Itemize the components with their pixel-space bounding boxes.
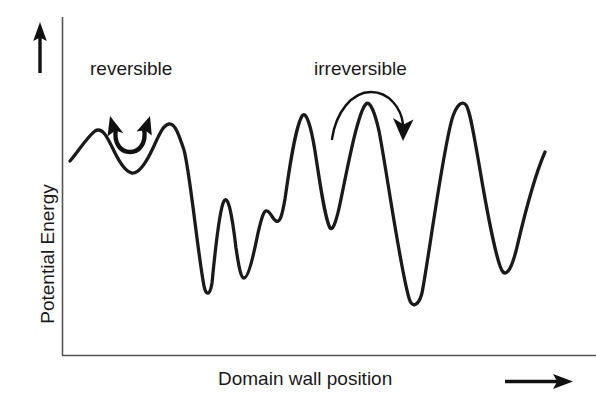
energy-landscape-figure: reversible irreversible Domain wall posi… <box>0 0 596 406</box>
up-arrow-icon <box>33 22 47 73</box>
double-headed-arc-arrow-icon <box>108 116 152 152</box>
right-arrow-icon <box>505 374 573 389</box>
potential-energy-curve <box>70 103 545 305</box>
curved-arrow-right-icon <box>332 92 414 141</box>
annotation-label-irreversible: irreversible <box>314 58 407 80</box>
y-axis-label: Potential Energy <box>37 159 59 349</box>
x-axis-label: Domain wall position <box>218 368 392 390</box>
annotation-label-reversible: reversible <box>90 58 172 80</box>
